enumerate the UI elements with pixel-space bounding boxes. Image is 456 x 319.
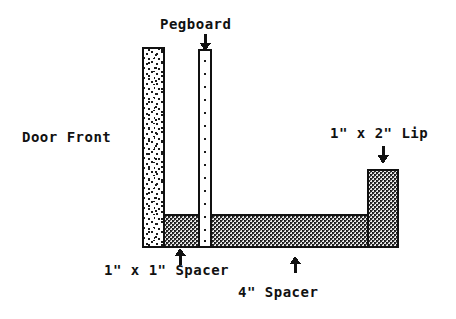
arrow-lip-icon <box>378 146 390 164</box>
label-spacer-1x1: 1" x 1" Spacer <box>104 263 229 277</box>
label-spacer-4: 4" Spacer <box>238 285 318 299</box>
part-door-front <box>143 48 164 247</box>
part-spacer-1x1 <box>163 215 199 247</box>
label-pegboard: Pegboard <box>160 17 231 31</box>
part-lip-1x2 <box>368 170 398 247</box>
diagram-canvas: Pegboard Door Front 1" x 2" Lip 1" x 1" … <box>0 0 456 319</box>
part-spacer-4 <box>211 215 368 247</box>
label-door-front: Door Front <box>22 130 111 144</box>
label-lip: 1" x 2" Lip <box>330 126 428 140</box>
arrow-pegboard-icon <box>200 34 212 51</box>
part-pegboard <box>199 50 211 247</box>
arrow-spacer-4-icon <box>290 256 302 273</box>
